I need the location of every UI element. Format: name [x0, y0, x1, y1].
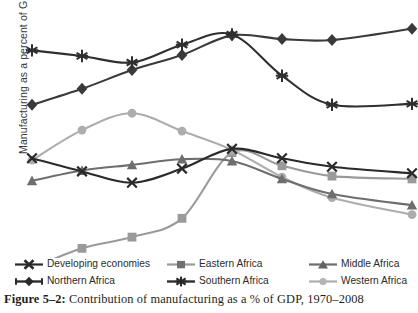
- legend-label: Eastern Africa: [199, 259, 262, 269]
- legend-label: Developing economies: [47, 259, 150, 269]
- caption-text: Contribution of manufacturing as a % of …: [66, 292, 364, 306]
- circle-marker-icon: [308, 275, 338, 288]
- square-marker-icon: [166, 258, 196, 271]
- series-western-africa: [28, 109, 417, 219]
- legend-label: Northern Africa: [47, 276, 115, 286]
- legend-item-eastern-africa[interactable]: Eastern Africa: [166, 258, 308, 271]
- line-chart: [26, 0, 418, 258]
- legend-item-developing-economies[interactable]: Developing economies: [14, 258, 166, 271]
- legend-item-northern-africa[interactable]: Northern Africa: [14, 275, 166, 288]
- series-developing-economies: [27, 144, 417, 187]
- legend-item-middle-africa[interactable]: Middle Africa: [308, 258, 412, 271]
- x-marker-icon: [14, 258, 44, 271]
- legend-item-western-africa[interactable]: Western Africa: [308, 275, 412, 288]
- figure-caption: Figure 5–2: Contribution of manufacturin…: [4, 292, 416, 307]
- chart-plot-area: [26, 0, 418, 258]
- star-marker-icon: [166, 275, 196, 288]
- legend-label: Western Africa: [341, 276, 407, 286]
- legend-label: Southern Africa: [199, 276, 269, 286]
- series-southern-africa: [26, 28, 418, 111]
- legend-label: Middle Africa: [341, 259, 399, 269]
- caption-label: Figure 5–2:: [4, 292, 66, 306]
- chart-legend: Developing economies Eastern Africa Midd…: [14, 256, 412, 290]
- series-northern-africa: [27, 23, 418, 111]
- figure-container: Manufacturing as a percent of GDP Develo…: [0, 0, 418, 313]
- triangle-marker-icon: [308, 258, 338, 271]
- diamond-marker-icon: [14, 275, 44, 288]
- legend-item-southern-africa[interactable]: Southern Africa: [166, 275, 308, 288]
